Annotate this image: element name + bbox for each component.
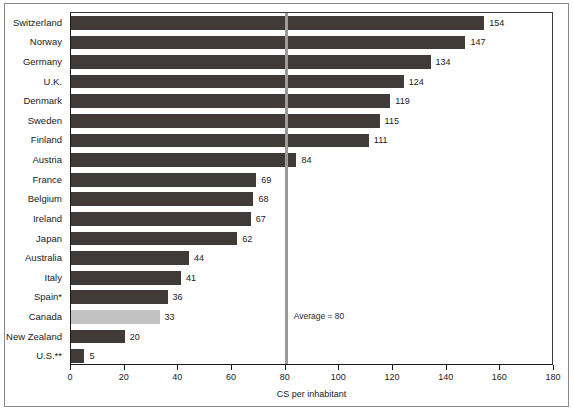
x-axis-tick — [446, 365, 447, 370]
bar — [71, 36, 465, 50]
bar-value-label: 68 — [253, 194, 268, 204]
x-axis-tick — [553, 365, 554, 370]
x-axis-tick-label: 180 — [545, 372, 560, 382]
x-axis-tick-label: 120 — [384, 372, 399, 382]
bar — [71, 271, 181, 285]
category-label: Canada — [29, 310, 62, 321]
bar-value-label: 41 — [181, 273, 196, 283]
bar-value-label: 62 — [237, 234, 252, 244]
bar-row: 124 — [71, 75, 552, 89]
average-annotation: Average = 80 — [294, 311, 345, 321]
bar-row: 44 — [71, 251, 552, 265]
category-axis-labels: SwitzerlandNorwayGermanyU.K.DenmarkSwede… — [0, 12, 66, 365]
category-label: Italy — [45, 271, 62, 282]
bar-value-label: 154 — [484, 18, 504, 28]
x-axis-tick — [231, 365, 232, 370]
category-label: Spain* — [34, 291, 62, 302]
bar — [71, 173, 256, 187]
bar-value-label: 44 — [189, 253, 204, 263]
bar-value-label: 36 — [168, 292, 183, 302]
x-axis-tick — [70, 365, 71, 370]
category-label: Ireland — [33, 212, 62, 223]
category-label: Switzerland — [13, 16, 62, 27]
bar-value-label: 119 — [390, 96, 409, 106]
bar — [71, 94, 390, 108]
category-label: France — [32, 173, 62, 184]
x-axis-tick — [499, 365, 500, 370]
x-axis-tick — [285, 365, 286, 370]
x-axis-tick-label: 140 — [438, 372, 453, 382]
x-axis-tick — [392, 365, 393, 370]
bar-value-label: 5 — [84, 351, 94, 361]
bar-value-label: 33 — [160, 312, 175, 322]
x-axis-tick-label: 40 — [172, 372, 182, 382]
x-axis: CS per inhabitant 0204060801001201401601… — [70, 365, 553, 411]
category-label: Belgium — [28, 193, 62, 204]
bar — [71, 114, 380, 128]
bar — [71, 55, 431, 69]
bar — [71, 134, 369, 148]
bar-row: 84 — [71, 153, 552, 167]
bar-row: 119 — [71, 94, 552, 108]
bar-row: 41 — [71, 271, 552, 285]
x-axis-title: CS per inhabitant — [70, 389, 553, 399]
category-label: Norway — [30, 36, 62, 47]
x-axis-tick — [338, 365, 339, 370]
bar-value-label: 20 — [125, 332, 140, 342]
plot-area: 1541471341241191151118469686762444136332… — [70, 12, 553, 365]
bar — [71, 349, 84, 363]
x-axis-tick-label: 100 — [331, 372, 346, 382]
bar-value-label: 84 — [296, 155, 311, 165]
x-axis-tick-label: 80 — [280, 372, 290, 382]
bar — [71, 212, 251, 226]
bar-row: 134 — [71, 55, 552, 69]
category-label: Finland — [31, 134, 62, 145]
bar — [71, 192, 253, 206]
category-label: Sweden — [28, 114, 62, 125]
category-label: Germany — [23, 56, 62, 67]
bar-row: 68 — [71, 192, 552, 206]
category-label: U.S.** — [36, 350, 62, 361]
bar — [71, 290, 168, 304]
category-label: Japan — [36, 232, 62, 243]
category-label: Australia — [25, 252, 62, 263]
category-label: U.K. — [44, 75, 62, 86]
bar-value-label: 124 — [404, 77, 424, 87]
bar-value-label: 134 — [431, 57, 451, 67]
bar-row: 154 — [71, 16, 552, 30]
x-axis-tick-label: 0 — [67, 372, 72, 382]
bar-row: 5 — [71, 349, 552, 363]
bar-value-label: 147 — [465, 37, 485, 47]
bar-value-label: 67 — [251, 214, 266, 224]
bar — [71, 251, 189, 265]
bar — [71, 153, 296, 167]
bar-value-label: 69 — [256, 175, 271, 185]
bar-row: 36 — [71, 290, 552, 304]
x-axis-tick-label: 20 — [119, 372, 129, 382]
x-axis-tick-label: 160 — [492, 372, 507, 382]
bar-row: 67 — [71, 212, 552, 226]
bar — [71, 75, 404, 89]
average-reference-line — [285, 13, 288, 364]
category-label: Denmark — [23, 95, 62, 106]
category-label: Austria — [32, 154, 62, 165]
x-axis-tick-label: 60 — [226, 372, 236, 382]
bar-row: 62 — [71, 232, 552, 246]
bar-value-label: 111 — [369, 135, 388, 145]
category-label: New Zealand — [6, 330, 62, 341]
bar-row: 111 — [71, 134, 552, 148]
chart-figure: SwitzerlandNorwayGermanyU.K.DenmarkSwede… — [0, 0, 573, 411]
bar — [71, 16, 484, 30]
bar-row: 147 — [71, 36, 552, 50]
bar — [71, 310, 160, 324]
bar-value-label: 115 — [380, 116, 399, 126]
x-axis-tick — [177, 365, 178, 370]
x-axis-tick — [124, 365, 125, 370]
bar — [71, 330, 125, 344]
bar-row: 69 — [71, 173, 552, 187]
bar-row: 20 — [71, 330, 552, 344]
bar — [71, 232, 237, 246]
bar-row: 115 — [71, 114, 552, 128]
